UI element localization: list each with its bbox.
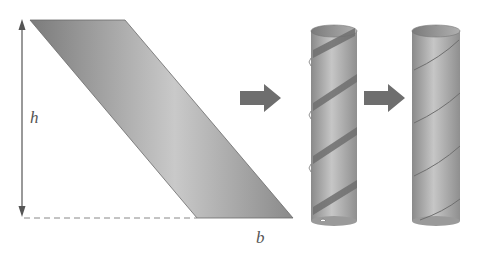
base-label: b xyxy=(256,228,265,248)
completed-tube xyxy=(412,25,460,226)
diagram-canvas xyxy=(0,0,486,257)
cylinder-being-wrapped xyxy=(309,25,357,226)
height-dimension-arrow xyxy=(19,19,26,217)
height-label: h xyxy=(30,108,39,128)
right-arrow-icon xyxy=(240,84,281,112)
right-arrow-icon xyxy=(364,84,405,112)
parallelogram-strip xyxy=(30,20,293,218)
